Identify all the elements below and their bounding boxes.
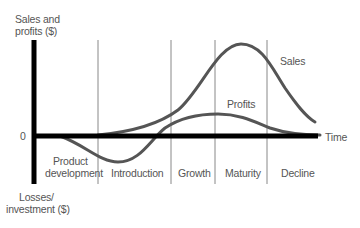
stage-product-development-line2: development	[45, 167, 103, 179]
y-axis-bottom-label-line2: investment ($)	[6, 203, 70, 215]
sales-label: Sales	[280, 55, 305, 67]
stage-maturity: Maturity	[225, 167, 261, 179]
stage-growth: Growth	[178, 167, 211, 179]
stage-decline: Decline	[281, 167, 315, 179]
x-axis-label: Time	[325, 131, 347, 143]
y-axis-top-label-line1: Sales and	[15, 13, 60, 25]
stage-introduction: Introduction	[111, 167, 163, 179]
y-axis-top-label-line2: profits ($)	[15, 25, 57, 37]
profits-label: Profits	[227, 98, 255, 110]
stage-product-development-line1: Product	[53, 155, 88, 167]
zero-label: 0	[20, 130, 26, 142]
y-axis-bottom-label-line1: Losses/	[19, 191, 54, 203]
